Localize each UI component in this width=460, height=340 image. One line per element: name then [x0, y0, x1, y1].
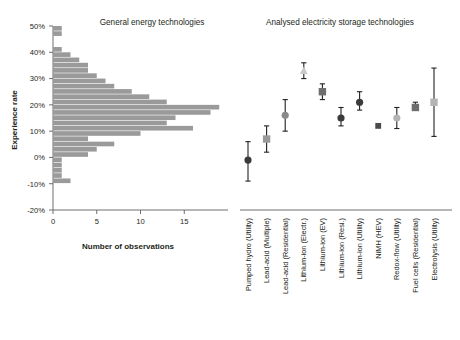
y-tick-label: 30%: [30, 74, 45, 83]
technology-category-labels: Pumped hydro (Utility)Lead-acid (Multipl…: [244, 218, 439, 294]
x-axis-left: 051015 Number of observations: [51, 210, 228, 251]
histogram-bar: [53, 131, 141, 136]
category-label: Lithium-ion (Utility): [355, 218, 364, 279]
data-point-marker: [430, 99, 437, 106]
x-tick-label: 0: [51, 217, 55, 226]
histogram-bar: [53, 79, 106, 84]
data-point-marker: [300, 66, 308, 73]
experience-rate-figure: General energy technologies Analysed ele…: [0, 0, 460, 340]
histogram-bar: [53, 121, 167, 126]
panel-right-title: Analysed electricity storage technologie…: [266, 18, 414, 27]
histogram-bars: [53, 26, 219, 183]
x-axis-label-left: Number of observations: [82, 242, 175, 251]
x-tick-label: 15: [180, 217, 188, 226]
histogram-bar: [53, 110, 211, 115]
histogram-bar: [53, 163, 62, 168]
y-tick-label: 50%: [30, 22, 45, 31]
histogram-bar: [53, 157, 62, 162]
histogram-bar: [53, 115, 176, 120]
histogram-bar: [53, 47, 62, 52]
technology-points: [244, 63, 437, 181]
histogram-bar: [53, 89, 132, 94]
category-label: Electrolysis (Utility): [430, 218, 439, 280]
histogram-bar: [53, 26, 62, 31]
category-label: Redox-flow (Utility): [392, 218, 401, 280]
histogram-bar: [53, 173, 62, 178]
y-tick-label: 40%: [30, 48, 45, 57]
category-label: Lithium-ion (Resi.): [337, 218, 346, 278]
data-point-marker: [393, 114, 400, 121]
category-label: Lead-acid (Residential): [281, 218, 290, 294]
data-point-marker: [412, 104, 419, 111]
category-label: Lead-acid (Multiple): [262, 218, 271, 283]
histogram-bar: [53, 136, 88, 141]
y-tick-label: 20%: [30, 101, 45, 110]
category-label: Lithium-ion (EV): [318, 218, 327, 271]
y-tick-label: -20%: [27, 206, 45, 215]
histogram-bar: [53, 142, 114, 147]
x-tick-label: 10: [136, 217, 144, 226]
data-point-marker: [356, 99, 363, 106]
histogram-bar: [53, 152, 88, 157]
histogram-bar: [53, 52, 71, 57]
histogram-bar: [53, 58, 79, 63]
histogram-bar: [53, 73, 97, 78]
data-point-marker: [375, 123, 381, 129]
x-tick-label: 5: [95, 217, 99, 226]
histogram-bar: [53, 168, 62, 173]
data-point-marker: [263, 135, 270, 142]
category-label: Pumped hydro (Utility): [244, 218, 253, 291]
data-point-marker: [282, 112, 289, 119]
histogram-bar: [53, 94, 149, 99]
y-axis-label: Experience rate: [10, 90, 19, 150]
data-point-marker: [244, 156, 251, 163]
histogram-bar: [53, 63, 88, 68]
histogram-bar: [53, 126, 193, 131]
y-tick-label: 0%: [34, 153, 45, 162]
histogram-bar: [53, 84, 114, 89]
category-label: Lithium-ion (Electr.): [299, 218, 308, 282]
histogram-bar: [53, 147, 97, 152]
histogram-bar: [53, 178, 71, 183]
histogram-bar: [53, 100, 167, 105]
histogram-bar: [53, 68, 88, 73]
category-label: Fuel cells (Residential): [411, 218, 420, 293]
y-tick-label: -10%: [27, 180, 45, 189]
y-tick-label: 10%: [30, 127, 45, 136]
data-point-marker: [337, 114, 344, 121]
category-label: NiMH (HEV): [374, 218, 383, 259]
data-point-marker: [319, 88, 326, 95]
y-axis: -20%-10%0%10%20%30%40%50% Experience rat…: [10, 22, 53, 215]
panel-left-title: General energy technologies: [100, 18, 205, 27]
histogram-bar: [53, 31, 62, 36]
histogram-bar: [53, 105, 219, 110]
